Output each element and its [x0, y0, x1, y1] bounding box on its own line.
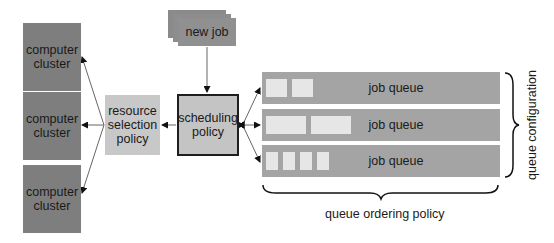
queue-ordering-brace: [263, 185, 498, 199]
computer-cluster-1: computer cluster: [23, 23, 81, 91]
job-queue-3: job queue: [262, 145, 500, 177]
queue-label: job queue: [262, 118, 500, 132]
resource-selection-policy: resource selection policy: [105, 95, 160, 155]
computer-cluster-2: computer cluster: [23, 92, 81, 160]
queue-configuration-brace: [505, 73, 519, 177]
new-job: new job: [178, 18, 236, 46]
queue-ordering-label: queue ordering policy: [325, 207, 445, 221]
scheduling-policy: scheduling policy: [177, 94, 239, 156]
job-queue-2: job queue: [262, 109, 500, 141]
queue-configuration-label: queue configuration: [525, 65, 539, 185]
job-queue-1: job queue: [262, 72, 500, 104]
computer-cluster-3: computer cluster: [23, 165, 81, 233]
queue-label: job queue: [262, 81, 500, 95]
queue-label: job queue: [262, 154, 500, 168]
